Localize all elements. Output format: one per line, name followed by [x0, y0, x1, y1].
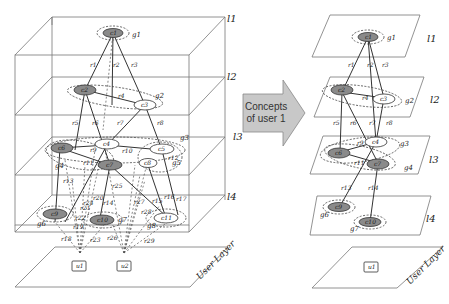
layer-label: l3 — [233, 131, 243, 142]
arrow-label: Concepts of user 1 — [245, 101, 287, 125]
relation-label: r14 — [103, 199, 114, 206]
layer-label: l4 — [426, 213, 436, 224]
concept-label: c5 — [158, 145, 165, 152]
relation-label: r11 — [354, 159, 365, 166]
relation-label: r3 — [131, 61, 138, 68]
relation-label: r13 — [63, 177, 74, 184]
concept-label: c6 — [335, 149, 342, 156]
concept-label: c7 — [106, 161, 113, 168]
layer-label: l1 — [227, 13, 237, 24]
relation-label: r17 — [176, 195, 187, 202]
concept-label: c3 — [380, 95, 387, 102]
relation-label: r5 — [72, 119, 79, 126]
relation-label: r16 — [164, 193, 175, 200]
concept-label: c4 — [372, 138, 379, 145]
user-layer-label: User Layer — [194, 238, 237, 281]
relation-label: r3 — [382, 61, 389, 68]
group-label: g6 — [320, 211, 329, 219]
relation-label: r25 — [112, 182, 123, 189]
group-label: g4 — [404, 164, 413, 172]
arrow-label-line1: Concepts — [245, 101, 287, 113]
group-label: g6 — [37, 220, 46, 228]
group-label: g2 — [155, 92, 164, 100]
group-label: g4 — [55, 162, 64, 170]
group-label: g8 — [147, 222, 156, 230]
relation-label: r8 — [157, 119, 164, 126]
concept-label: c6 — [58, 144, 65, 151]
concept-hierarchy-diagram: l1 l2 l3 l4 User Layer — [0, 0, 449, 304]
relation-label: r4 — [118, 92, 125, 99]
concept-label: c11 — [161, 214, 172, 221]
relation-label: r4 — [362, 94, 369, 101]
relation-label: r22 — [75, 214, 86, 221]
relation-label: r5 — [333, 119, 340, 126]
layer-label: l1 — [427, 33, 437, 44]
concept-label: c8 — [144, 159, 151, 166]
relation-label: r15 — [152, 197, 163, 204]
group-label: g3 — [400, 140, 409, 148]
concept-label: c2 — [81, 86, 88, 93]
relation-label: r14 — [368, 184, 379, 191]
concept-label: c9 — [51, 210, 58, 217]
right-edges — [339, 37, 384, 222]
relation-label: r8 — [386, 119, 393, 126]
group-label: g3 — [180, 134, 189, 142]
layer-label: l3 — [429, 154, 439, 165]
relation-label: r29 — [144, 237, 155, 244]
relation-label: r6 — [350, 119, 357, 126]
concept-label: c3 — [141, 101, 148, 108]
user-label: u1 — [76, 262, 84, 269]
relation-label: r13 — [341, 184, 352, 191]
relation-label: r9 — [90, 146, 97, 153]
relation-label: r27 — [134, 198, 145, 205]
relation-label: r2 — [367, 61, 374, 68]
concept-label: c4 — [103, 140, 110, 147]
group-label: g1 — [132, 31, 141, 39]
relation-label: r11 — [83, 159, 94, 166]
relation-label: r7 — [117, 119, 124, 126]
relation-label: r10 — [122, 147, 133, 154]
concept-label: c1 — [110, 29, 117, 36]
arrow-label-line2: of user 1 — [245, 113, 287, 125]
group-label: g7 — [350, 225, 359, 233]
group-label: g7 — [118, 216, 127, 224]
group-label: g1 — [387, 34, 396, 42]
relation-label: r19 — [73, 223, 84, 230]
relation-label: r18 — [61, 235, 72, 242]
user-label: u1 — [368, 263, 376, 270]
relation-label: r7 — [369, 119, 376, 126]
relation-label: r28 — [141, 208, 152, 215]
relation-label: r26 — [107, 234, 118, 241]
group-label: g2 — [405, 97, 414, 105]
relation-label: r2 — [113, 61, 120, 68]
relation-label: r9 — [357, 139, 364, 146]
relation-label: r24 — [83, 199, 94, 206]
relation-label: r23 — [90, 236, 101, 243]
user-layer-label: User Layer — [404, 243, 447, 286]
relation-label: r1 — [90, 61, 97, 68]
user-label: u2 — [121, 262, 129, 269]
relation-label: r20 — [93, 194, 104, 201]
layer-label: l2 — [227, 71, 237, 82]
concept-label: c7 — [374, 160, 381, 167]
layer-label: l2 — [430, 94, 440, 105]
concept-label: c1 — [365, 33, 372, 40]
layer-label: l4 — [227, 191, 237, 202]
concept-label: c2 — [338, 86, 345, 93]
concept-label: c10 — [365, 218, 376, 225]
relation-label: r12 — [168, 154, 179, 161]
concept-label: c9 — [335, 203, 342, 210]
relation-label: r1 — [348, 61, 355, 68]
concept-label: c10 — [97, 216, 108, 223]
relation-label: r6 — [92, 119, 99, 126]
